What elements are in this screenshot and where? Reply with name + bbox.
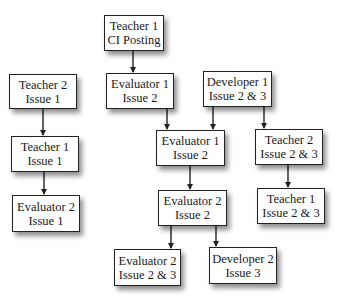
node-issue: Issue 2: [175, 208, 210, 222]
node-role: Evaluator 1: [111, 77, 169, 91]
node-issue: Issue 2 & 3: [260, 147, 317, 161]
node-teacher1-issue1: Teacher 1 Issue 1: [11, 136, 79, 172]
node-issue: Issue 2 & 3: [209, 89, 266, 103]
node-evaluator2-issue2: Evaluator 2 Issue 2: [158, 190, 227, 226]
node-role: Evaluator 1: [162, 134, 220, 148]
node-issue: Issue 2: [173, 148, 208, 162]
node-role: Teacher 1: [21, 140, 70, 154]
node-issue: Issue 2: [122, 91, 157, 105]
node-issue: Issue 3: [225, 266, 260, 280]
node-role: Evaluator 2: [119, 254, 177, 268]
node-role: Teacher 2: [265, 133, 314, 147]
node-evaluator1-issue2-mid: Evaluator 1 Issue 2: [156, 130, 225, 166]
node-issue: Issue 1: [28, 214, 63, 228]
node-role: Evaluator 2: [164, 194, 222, 208]
node-issue: Issue 2 & 3: [119, 268, 176, 282]
node-issue: Issue 1: [25, 92, 60, 106]
node-developer2-issue3: Developer 2 Issue 3: [209, 247, 277, 284]
node-issue: Issue 2 & 3: [262, 206, 319, 220]
node-evaluator1-issue2-top: Evaluator 1 Issue 2: [106, 73, 174, 109]
node-developer1-issue2-3: Developer 1 Issue 2 & 3: [203, 71, 272, 107]
node-role: Evaluator 2: [17, 200, 75, 214]
node-evaluator2-issue1: Evaluator 2 Issue 1: [12, 195, 80, 232]
node-teacher2-issue2-3: Teacher 2 Issue 2 & 3: [255, 129, 323, 165]
node-role: Teacher 1: [110, 19, 159, 33]
node-issue: CI Posting: [107, 33, 160, 47]
node-teacher2-issue1: Teacher 2 Issue 1: [9, 74, 77, 109]
node-teacher1-issue2-3: Teacher 1 Issue 2 & 3: [257, 188, 325, 224]
node-role: Developer 1: [207, 75, 268, 89]
node-role: Developer 2: [212, 252, 273, 266]
node-evaluator2-issue2-3: Evaluator 2 Issue 2 & 3: [114, 249, 181, 286]
node-issue: Issue 1: [27, 154, 62, 168]
node-role: Teacher 1: [267, 192, 316, 206]
node-role: Teacher 2: [19, 78, 68, 92]
node-teacher1-ci-posting: Teacher 1 CI Posting: [104, 15, 164, 51]
flow-diagram: Teacher 1 CI Posting Teacher 2 Issue 1 E…: [0, 0, 337, 301]
